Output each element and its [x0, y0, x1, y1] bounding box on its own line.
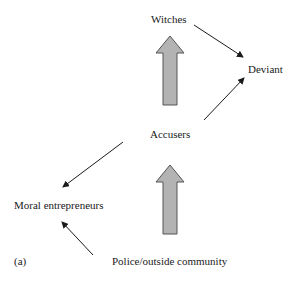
arrow-witches-to-deviant	[194, 25, 243, 57]
arrow-accusers-to-moral-entrepreneurs	[63, 142, 123, 187]
block-arrow-police-to-accusers	[156, 165, 184, 234]
diagram-arrows	[0, 0, 296, 284]
node-moral-entrepreneurs: Moral entrepreneurs	[14, 199, 104, 212]
node-witches: Witches	[151, 13, 187, 26]
block-arrow-accusers-to-witches	[156, 36, 184, 105]
panel-label: (a)	[14, 255, 26, 268]
node-police-outside-community: Police/outside community	[112, 255, 227, 268]
node-deviant: Deviant	[248, 63, 283, 76]
arrow-police-to-moral-entrepreneurs	[62, 222, 93, 255]
arrow-accusers-to-deviant	[204, 78, 244, 120]
node-accusers: Accusers	[150, 128, 190, 141]
